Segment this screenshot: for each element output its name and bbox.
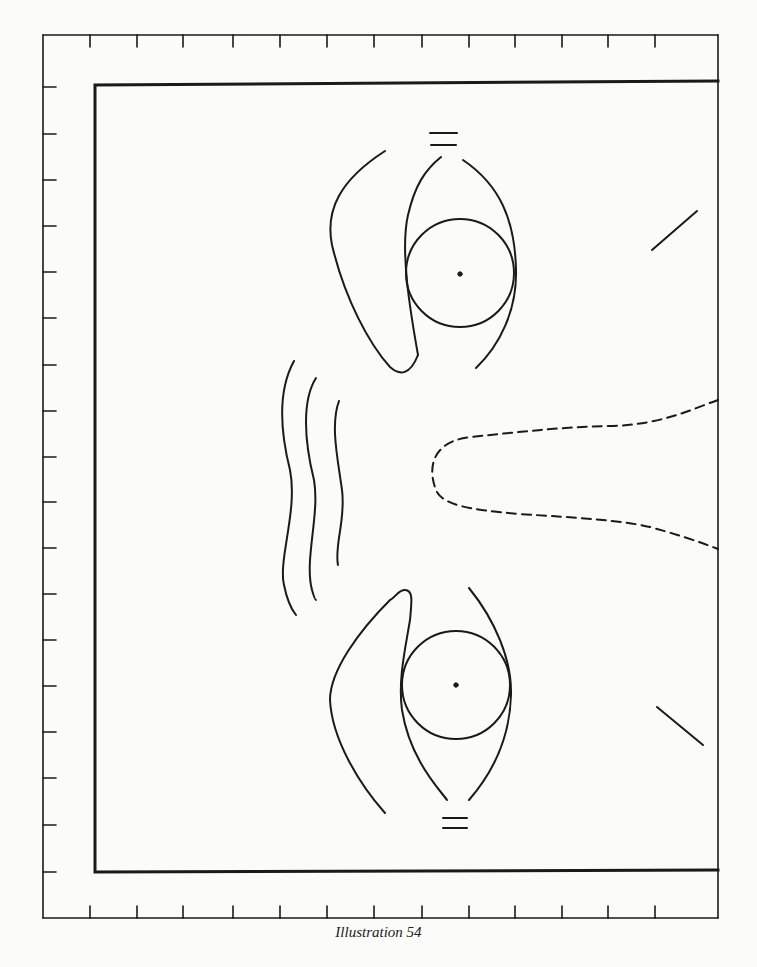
upper-pupil-dot bbox=[458, 272, 462, 276]
top-ruler-ticks bbox=[90, 35, 655, 47]
lower-pupil-dot bbox=[454, 683, 458, 687]
illustration-canvas bbox=[0, 0, 757, 967]
diagonal-mark-bottom bbox=[657, 707, 703, 745]
bottom-ruler-ticks bbox=[90, 906, 655, 918]
inner-frame bbox=[95, 81, 718, 872]
figure-caption: Illustration 54 bbox=[0, 924, 757, 941]
wrinkles bbox=[282, 361, 343, 615]
upper-eye bbox=[330, 133, 516, 372]
lower-eye bbox=[330, 588, 511, 828]
dashed-contour bbox=[432, 400, 718, 549]
left-ruler-ticks bbox=[43, 87, 56, 872]
outer-frame bbox=[43, 35, 718, 918]
diagonal-mark-top bbox=[652, 211, 697, 250]
